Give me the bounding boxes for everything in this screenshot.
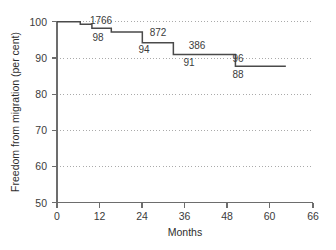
annotation-percent-98: 98 <box>92 32 104 43</box>
annotation-percent-91: 91 <box>183 57 195 68</box>
y-tick-label-50: 50 <box>35 197 47 209</box>
x-tick-label-66: 66 <box>307 210 319 222</box>
x-axis-title: Months <box>168 226 202 238</box>
x-tick-label-12: 12 <box>94 210 106 222</box>
y-axis-title: Freedom from migration (per cent) <box>9 32 21 192</box>
x-tick-label-0: 0 <box>54 210 60 222</box>
annotation-percent-88: 88 <box>232 69 244 80</box>
y-axis: 100 90 80 70 60 50 Freedom from migratio… <box>9 16 57 209</box>
x-axis: 0 12 24 36 48 60 66 Months <box>54 203 319 238</box>
annotation-at-risk-872: 872 <box>150 27 167 38</box>
y-tick-label-100: 100 <box>29 16 47 28</box>
y-tick-label-80: 80 <box>35 88 47 100</box>
annotation-at-risk-96: 96 <box>232 53 244 64</box>
y-tick-label-70: 70 <box>35 124 47 136</box>
y-tick-label-60: 60 <box>35 160 47 172</box>
y-tick-label-90: 90 <box>35 52 47 64</box>
x-tick-label-60: 60 <box>264 210 276 222</box>
gridlines <box>57 22 313 167</box>
annotation-at-risk-386: 386 <box>189 40 206 51</box>
annotation-at-risk-1766: 1766 <box>90 15 113 26</box>
annotation-percent-94: 94 <box>138 44 150 55</box>
x-tick-label-48: 48 <box>221 210 233 222</box>
chart-canvas: 100 90 80 70 60 50 Freedom from migratio… <box>0 0 336 250</box>
x-tick-label-36: 36 <box>179 210 191 222</box>
chart-figure: 100 90 80 70 60 50 Freedom from migratio… <box>0 0 336 250</box>
survival-step-curve <box>57 22 286 67</box>
x-tick-label-24: 24 <box>136 210 148 222</box>
data-annotations: 1766 98 872 94 386 91 96 88 <box>90 15 244 80</box>
